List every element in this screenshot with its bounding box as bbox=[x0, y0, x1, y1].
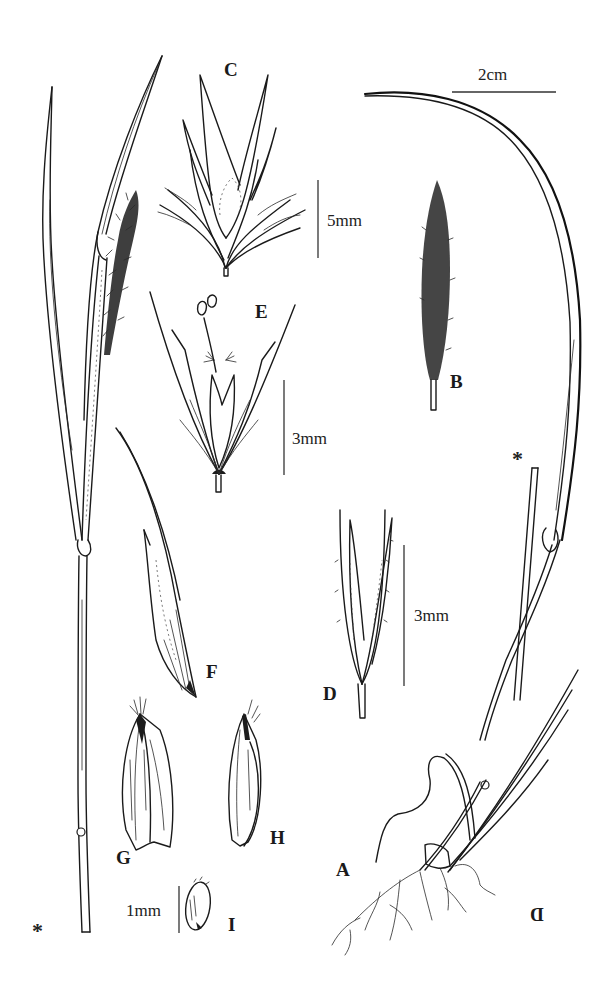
mirrored-d-mark: D bbox=[530, 905, 544, 924]
panel-label-i: I bbox=[228, 915, 235, 934]
asterisk-marker-left: * bbox=[32, 920, 43, 942]
spikelet-drawing bbox=[335, 510, 393, 718]
spikelet-cluster-drawing bbox=[158, 75, 305, 276]
panel-label-h: H bbox=[270, 828, 285, 847]
scale-text-2cm: 2cm bbox=[478, 66, 507, 83]
panel-label-f: F bbox=[206, 662, 218, 681]
panel-label-e: E bbox=[255, 302, 268, 321]
scale-text-3mm-d: 3mm bbox=[414, 607, 449, 624]
caryopsis-drawing bbox=[183, 877, 213, 931]
panel-label-g: G bbox=[116, 848, 131, 867]
floret-drawing bbox=[150, 292, 295, 492]
left-culm-drawing bbox=[43, 56, 162, 932]
habit-plant-drawing bbox=[332, 92, 580, 955]
panel-label-c: C bbox=[224, 60, 238, 79]
scale-text-5mm: 5mm bbox=[327, 212, 362, 229]
panel-label-d: D bbox=[323, 684, 337, 703]
glume-drawing bbox=[116, 428, 196, 697]
scale-text-3mm-e: 3mm bbox=[292, 430, 327, 447]
scale-text-1mm: 1mm bbox=[126, 902, 161, 919]
lemma-drawing bbox=[122, 697, 172, 850]
plate-drawings bbox=[0, 0, 613, 994]
panel-label-a: A bbox=[336, 860, 350, 879]
palea-drawing bbox=[229, 700, 261, 846]
asterisk-marker-right: * bbox=[512, 448, 523, 470]
botanical-plate: C B E F D G H A I D 2cm 5mm 3mm 3mm 1mm … bbox=[0, 0, 613, 994]
panel-label-b: B bbox=[450, 372, 463, 391]
left-panicle bbox=[103, 190, 139, 355]
